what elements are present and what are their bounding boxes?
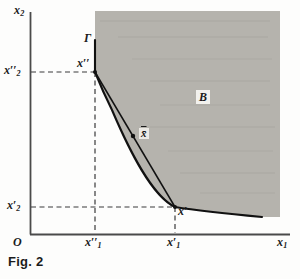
curve-gamma-label: Γ [84, 32, 91, 44]
tick-x1dp-sub: 1 [97, 241, 101, 250]
point-x-prime-marker [173, 205, 177, 209]
pt-xdp-prime: ′′ [83, 56, 89, 70]
point-x-bar-marker [131, 134, 135, 138]
origin-label: O [13, 236, 22, 248]
point-x-bar-label: x̄ [139, 128, 149, 139]
tick-x2p-sub: 2 [16, 204, 20, 213]
tick-label-x2-double-prime: x′′2 [4, 64, 21, 78]
point-x-prime-label: x′ [178, 205, 187, 217]
y-axis-label: x2 [14, 4, 24, 18]
tick-x2dp-sub: 2 [16, 69, 20, 78]
figure-graphic [0, 0, 300, 279]
point-x-double-prime-marker [93, 70, 97, 74]
region-b-label: B [196, 90, 210, 104]
point-x-double-prime-label: x′′ [77, 57, 89, 69]
tick-x1p-sub: 1 [176, 241, 180, 250]
tick-label-x1-prime: x′1 [167, 236, 180, 250]
pt-xp-prime: ′ [184, 204, 187, 218]
tick-label-x1-double-prime: x′′1 [85, 236, 102, 250]
pt-xbar-text: x̄ [141, 127, 147, 139]
x-axis-label: x1 [277, 236, 287, 250]
region-b-shading [95, 11, 280, 217]
figure-caption: Fig. 2 [8, 254, 44, 269]
y-axis-label-subscript: 2 [20, 9, 24, 18]
figure-2-container: x2 x1 O x′′2 x′2 x′′1 x′1 Γ x′′ x′ x̄ B [0, 0, 300, 279]
tick-label-x2-prime: x′2 [7, 199, 20, 213]
x-axis-label-subscript: 1 [283, 241, 287, 250]
